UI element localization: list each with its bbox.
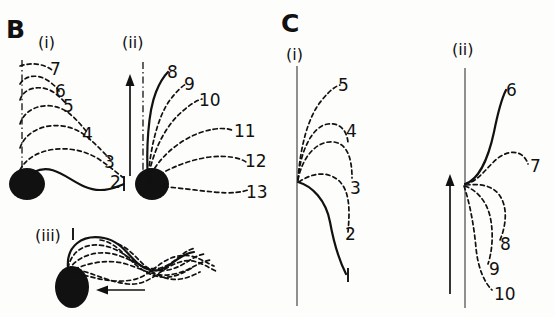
wave-label-c-ii-7: 7 xyxy=(530,156,541,176)
subpanel-label-c-i: (i) xyxy=(286,45,303,64)
wave-label-c-i-5: 5 xyxy=(338,75,349,95)
wave-label-b-ii-10: 10 xyxy=(199,90,221,110)
wave-label-b-i-4: 4 xyxy=(82,124,93,144)
wave-label-b-i-3: 3 xyxy=(104,152,115,172)
subpanel-label-b-i: (i) xyxy=(38,33,55,52)
wave-label-c-ii-8: 8 xyxy=(500,234,511,254)
flagellar-waveform-figure: B (i) 7 6 5 4 3 2 (ii) 8 9 10 11 12 13 (… xyxy=(0,0,555,317)
wave-label-c-i-4: 4 xyxy=(346,121,357,141)
wave-label-b-ii-9: 9 xyxy=(184,74,195,94)
figure-canvas: B (i) 7 6 5 4 3 2 (ii) 8 9 10 11 12 13 (… xyxy=(0,0,555,317)
wave-label-b-i-7: 7 xyxy=(50,59,61,79)
wave-label-b-ii-11: 11 xyxy=(234,121,256,141)
wave-label-c-ii-9: 9 xyxy=(489,259,500,279)
panel-letter-b: B xyxy=(6,15,25,44)
subpanel-label-b-ii: (ii) xyxy=(122,33,143,52)
panel-letter-c: C xyxy=(281,9,299,38)
wave-label-c-ii-6: 6 xyxy=(506,80,517,100)
wave-label-b-i-2: 2 xyxy=(110,172,121,192)
wave-label-c-ii-10: 10 xyxy=(494,284,516,304)
subpanel-label-b-iii: (iii) xyxy=(35,226,61,245)
cell-body-b-i xyxy=(9,168,45,200)
wave-label-b-i-5: 5 xyxy=(63,96,74,116)
wave-label-b-ii-13: 13 xyxy=(246,182,268,202)
wave-label-b-ii-12: 12 xyxy=(245,151,267,171)
wave-label-c-i-2: 2 xyxy=(345,224,356,244)
subpanel-label-c-ii: (ii) xyxy=(452,40,473,59)
wave-label-c-i-3: 3 xyxy=(350,178,361,198)
wave-label-b-ii-8: 8 xyxy=(167,62,178,82)
